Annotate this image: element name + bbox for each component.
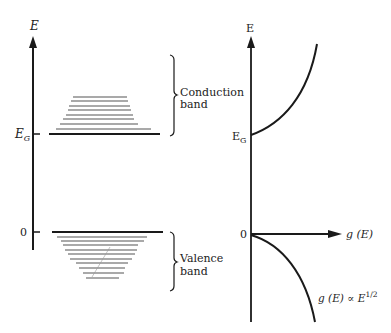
valence-band-brace bbox=[170, 232, 177, 291]
left-axis-arrowhead-icon bbox=[29, 36, 37, 48]
right-eg-label: EG bbox=[232, 130, 246, 145]
valence-band-levels bbox=[57, 237, 147, 278]
valence-band-label-line2: band bbox=[180, 265, 208, 278]
conduction-band-label-line2: band bbox=[180, 98, 208, 111]
g-axis-arrowhead-icon bbox=[328, 230, 342, 238]
left-energy-level-diagram: E EG 0 bbox=[14, 19, 244, 291]
conduction-band-levels bbox=[56, 97, 151, 129]
conduction-dos-curve bbox=[251, 44, 317, 135]
left-axis-label: E bbox=[29, 19, 39, 33]
band-diagram-canvas: E EG 0 bbox=[0, 0, 391, 333]
right-density-of-states-diagram: E EG 0 g (E) g (E) ∝ E1/2 bbox=[232, 22, 378, 322]
valence-dos-curve bbox=[251, 235, 315, 322]
eg-label: EG bbox=[14, 127, 31, 143]
g-axis-label: g (E) bbox=[346, 228, 373, 241]
conduction-band-brace bbox=[170, 55, 177, 136]
right-axis-arrowhead-icon bbox=[247, 36, 255, 48]
zero-label: 0 bbox=[20, 226, 27, 239]
right-axis-label: E bbox=[246, 22, 254, 35]
dos-formula-label: g (E) ∝ E1/2 bbox=[318, 290, 378, 304]
right-zero-label: 0 bbox=[240, 228, 247, 241]
valence-band-label: Valence bbox=[179, 252, 223, 265]
